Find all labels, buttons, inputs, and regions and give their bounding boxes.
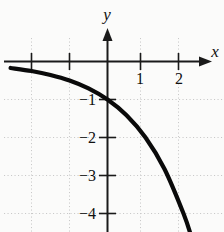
xtick-label-2: 2 xyxy=(175,70,183,87)
graph-figure: 1 2 −1 −2 −3 −4 x y xyxy=(0,0,224,232)
y-axis-label: y xyxy=(101,5,111,24)
x-axis-label: x xyxy=(210,42,219,61)
xtick-label-1: 1 xyxy=(136,70,144,87)
ytick-label-neg1: −1 xyxy=(79,91,96,108)
ytick-label-neg3: −3 xyxy=(79,167,96,184)
ytick-label-neg4: −4 xyxy=(79,205,96,222)
chart-background xyxy=(0,0,224,232)
ytick-label-neg2: −2 xyxy=(79,129,96,146)
